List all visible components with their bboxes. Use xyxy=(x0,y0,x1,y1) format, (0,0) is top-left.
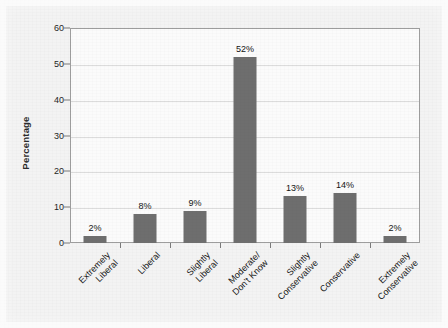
x-axis-tick-mark xyxy=(170,243,171,248)
bar-slot: 9% xyxy=(170,28,220,243)
bar-value-label: 2% xyxy=(388,223,401,233)
chart-figure: Percentage 0102030405060 2%8%9%52%13%14%… xyxy=(0,0,448,328)
bar[interactable] xyxy=(134,214,157,243)
y-axis-tick-label: 10 xyxy=(36,202,64,212)
y-axis-tick-label: 30 xyxy=(36,131,64,141)
x-axis-category-label: ExtremelyLiberal xyxy=(20,250,120,328)
x-axis-tick-mark xyxy=(320,243,321,248)
y-axis-title: Percentage xyxy=(20,88,31,198)
bar-value-label: 2% xyxy=(88,223,101,233)
bar[interactable] xyxy=(334,193,357,243)
x-axis-tick-mark xyxy=(270,243,271,248)
bar-value-label: 9% xyxy=(188,198,201,208)
bar-value-label: 14% xyxy=(336,180,354,190)
bar-value-label: 8% xyxy=(138,201,151,211)
x-axis-tick-mark xyxy=(120,243,121,248)
y-axis-tick-label: 40 xyxy=(36,95,64,105)
bar-series: 2%8%9%52%13%14%2% xyxy=(70,28,420,243)
bar-slot: 52% xyxy=(220,28,270,243)
bar-slot: 2% xyxy=(370,28,420,243)
x-axis-tick-mark xyxy=(370,243,371,248)
y-axis-tick-label: 20 xyxy=(36,166,64,176)
y-axis-tick-label: 60 xyxy=(36,23,64,33)
bar-slot: 14% xyxy=(320,28,370,243)
x-axis-category-label: ExtremelyConservative xyxy=(320,250,420,328)
bar[interactable] xyxy=(184,211,207,243)
bar-value-label: 13% xyxy=(286,183,304,193)
x-axis-tick-mark xyxy=(220,243,221,248)
bar[interactable] xyxy=(84,236,107,243)
bar-slot: 13% xyxy=(270,28,320,243)
bar-slot: 2% xyxy=(70,28,120,243)
y-axis-tick-label: 0 xyxy=(36,238,64,248)
bar-value-label: 52% xyxy=(236,44,254,54)
bar[interactable] xyxy=(284,196,307,243)
bar[interactable] xyxy=(384,236,407,243)
bar-slot: 8% xyxy=(120,28,170,243)
bar[interactable] xyxy=(234,57,257,243)
y-axis-tick-label: 50 xyxy=(36,59,64,69)
